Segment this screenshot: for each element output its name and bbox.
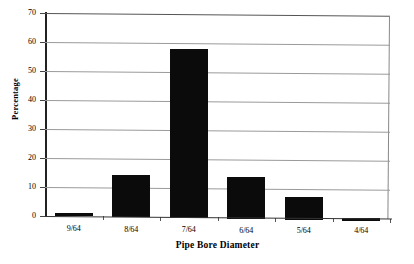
x-tick-label: 4/64	[335, 226, 387, 235]
y-tick-label: 40	[10, 96, 36, 104]
y-tick-label: 60	[10, 38, 36, 46]
x-tick-label: 6/64	[220, 226, 272, 235]
bar	[227, 177, 265, 219]
y-tick-label: 70	[10, 9, 36, 17]
y-tick-label: 10	[10, 183, 36, 191]
y-tick-mark	[40, 42, 45, 43]
bar	[285, 197, 323, 220]
y-tick-label: 30	[10, 125, 36, 133]
x-tick-label: 8/64	[105, 225, 157, 234]
y-tick-mark	[40, 158, 45, 159]
bar	[170, 49, 208, 218]
bar-chart: Percentage 010203040506070 9/648/647/646…	[0, 0, 414, 264]
y-tick-mark	[40, 129, 45, 130]
y-tick-label: 50	[10, 67, 36, 75]
y-tick-mark	[40, 71, 45, 72]
y-tick-label: 20	[10, 154, 36, 162]
y-tick-mark	[40, 100, 45, 101]
x-tick-label: 7/64	[163, 225, 215, 234]
x-axis-title: Pipe Bore Diameter	[45, 240, 390, 250]
y-tick-mark	[40, 187, 45, 188]
y-tick-label: 0	[10, 212, 36, 220]
bar	[112, 175, 150, 217]
x-tick-label: 9/64	[48, 224, 100, 233]
y-tick-mark	[40, 13, 45, 14]
x-tick-label: 5/64	[278, 226, 330, 235]
